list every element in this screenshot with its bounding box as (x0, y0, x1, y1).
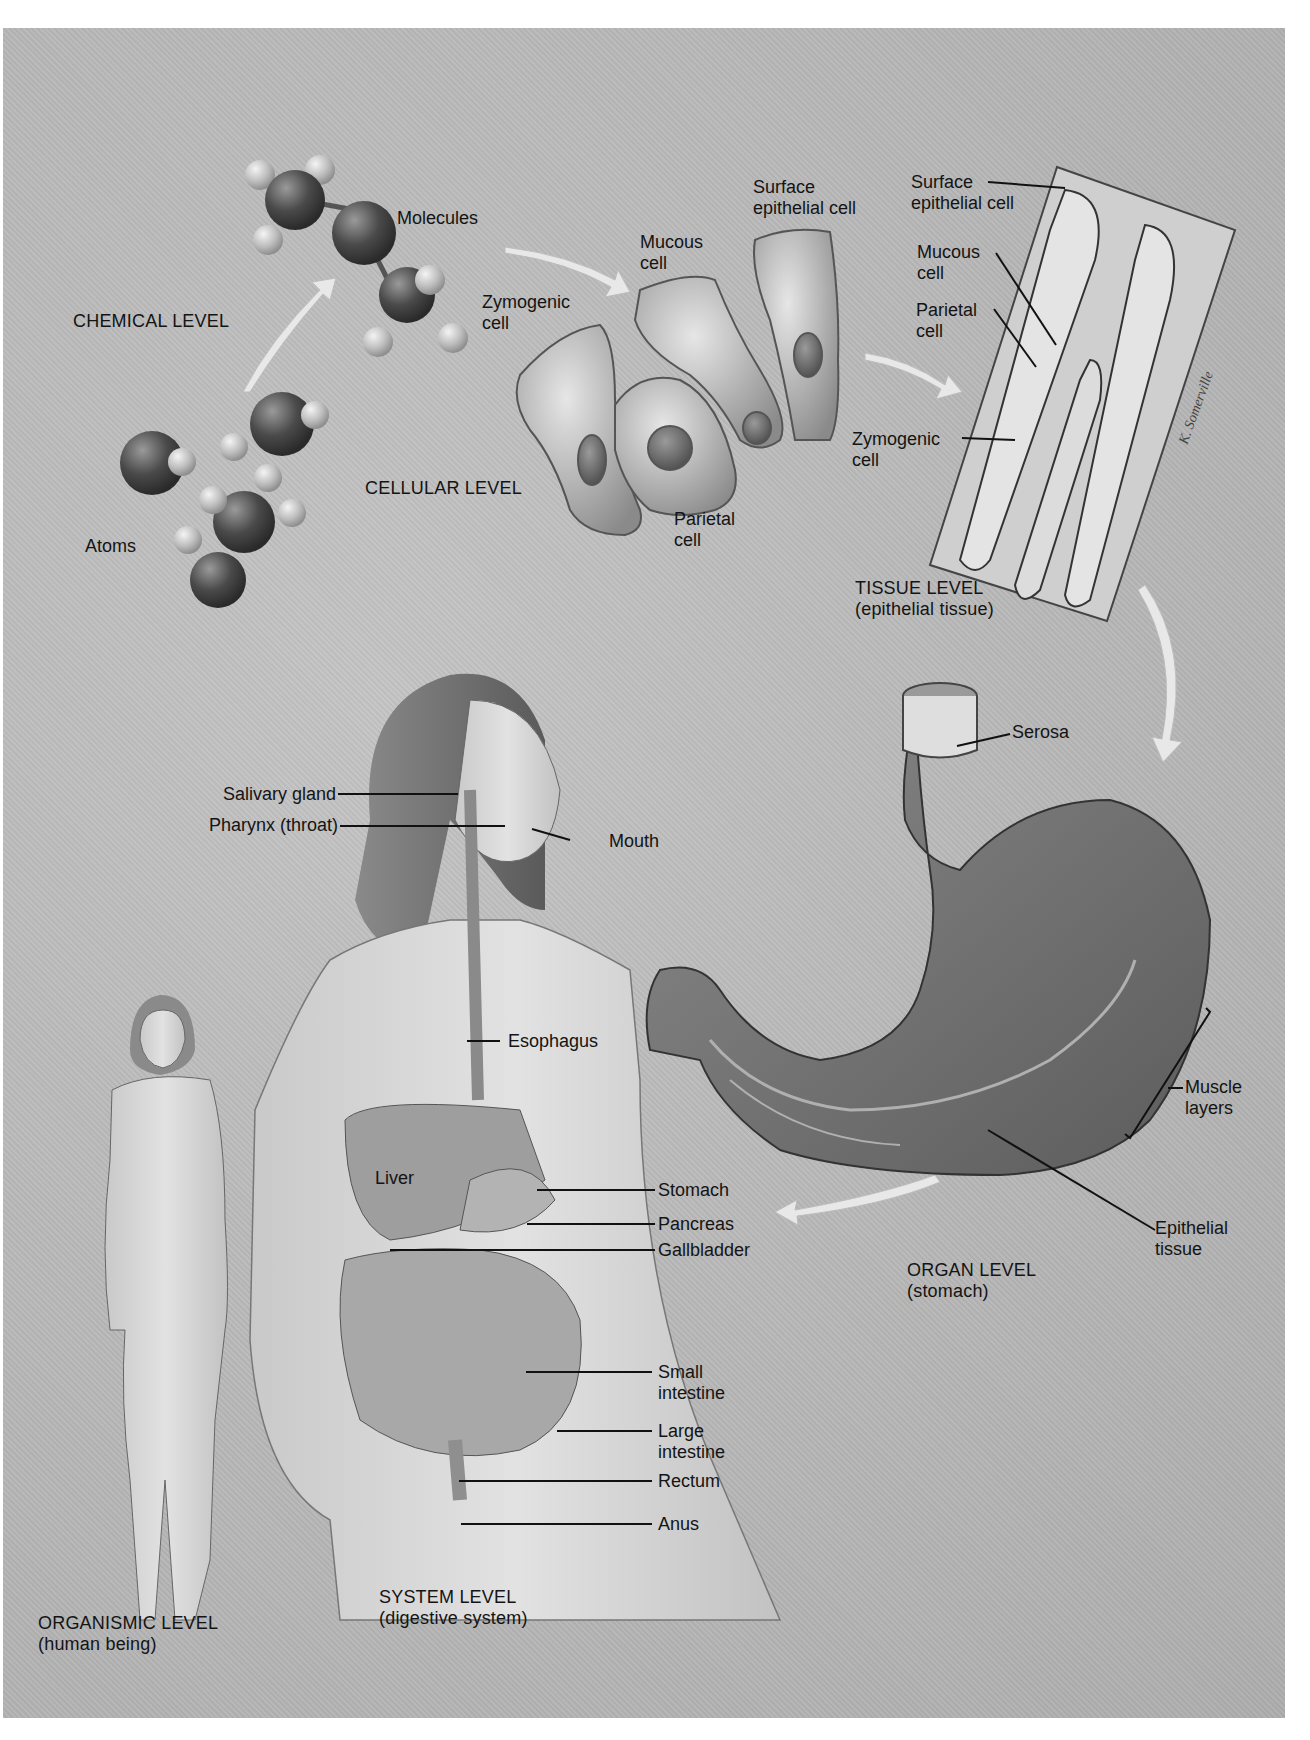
atoms-cluster (120, 392, 329, 608)
label-line: Zymogenic (852, 429, 940, 450)
tissue-level-title: TISSUE LEVEL (epithelial tissue) (855, 578, 994, 620)
cell-parietal-label: Parietal cell (674, 509, 735, 551)
system-level-name: SYSTEM LEVEL (379, 1587, 528, 1608)
label-line: Epithelial (1155, 1218, 1228, 1239)
label-line: intestine (658, 1383, 725, 1404)
molecule-model (245, 155, 468, 357)
label-line: Zymogenic (482, 292, 570, 313)
atoms-label: Atoms (85, 536, 136, 557)
label-line: cell (916, 321, 977, 342)
organ-level-name: ORGAN LEVEL (907, 1260, 1036, 1281)
label-line: Large (658, 1421, 725, 1442)
large-intestine-label: Large intestine (658, 1421, 725, 1463)
molecules-label: Molecules (397, 208, 478, 229)
organ-level-sub: (stomach) (907, 1281, 1036, 1302)
serosa-label: Serosa (1012, 722, 1069, 743)
woman-organismic-figure (105, 995, 228, 1620)
mouth-label: Mouth (609, 831, 659, 852)
chemical-level-title: CHEMICAL LEVEL (73, 311, 229, 332)
system-level-sub: (digestive system) (379, 1608, 528, 1629)
organ-level-title: ORGAN LEVEL (stomach) (907, 1260, 1036, 1302)
label-line: cell (852, 450, 940, 471)
tissue-level-sub: (epithelial tissue) (855, 599, 994, 620)
esophagus-label: Esophagus (508, 1031, 598, 1052)
epithelial-tissue-label: Epithelial tissue (1155, 1218, 1228, 1260)
organismic-level-name: ORGANISMIC LEVEL (38, 1613, 218, 1634)
label-line: tissue (1155, 1239, 1228, 1260)
tissue-zymogenic-label: Zymogenic cell (852, 429, 940, 471)
label-line: Muscle (1185, 1077, 1242, 1098)
label-line: cell (482, 313, 570, 334)
label-line: Mucous (917, 242, 980, 263)
stomach-label: Stomach (658, 1180, 729, 1201)
liver-label: Liver (375, 1168, 414, 1189)
label-line: epithelial cell (753, 198, 856, 219)
cell-surface-epithelial-label: Surface epithelial cell (753, 177, 856, 219)
tissue-surface-epithelial-label: Surface epithelial cell (911, 172, 1014, 214)
cell-mucous-label: Mucous cell (640, 232, 703, 274)
system-level-title: SYSTEM LEVEL (digestive system) (379, 1587, 528, 1629)
gallbladder-label: Gallbladder (658, 1240, 750, 1261)
tissue-level-name: TISSUE LEVEL (855, 578, 994, 599)
tissue-mucous-label: Mucous cell (917, 242, 980, 284)
organismic-level-title: ORGANISMIC LEVEL (human being) (38, 1613, 218, 1655)
salivary-gland-label: Salivary gland (150, 784, 336, 805)
label-line: Surface (911, 172, 1014, 193)
label-line: Mucous (640, 232, 703, 253)
label-line: cell (640, 253, 703, 274)
tissue-block (930, 167, 1235, 621)
small-intestine-label: Small intestine (658, 1362, 725, 1404)
pharynx-label: Pharynx (throat) (150, 815, 338, 836)
rectum-label: Rectum (658, 1471, 720, 1492)
anus-label: Anus (658, 1514, 699, 1535)
muscle-layers-label: Muscle layers (1185, 1077, 1242, 1119)
label-line: Surface (753, 177, 856, 198)
label-line: layers (1185, 1098, 1242, 1119)
cellular-level-title: CELLULAR LEVEL (365, 478, 522, 499)
label-line: intestine (658, 1442, 725, 1463)
label-line: Parietal (916, 300, 977, 321)
tissue-parietal-label: Parietal cell (916, 300, 977, 342)
stomach-illustration (647, 683, 1210, 1175)
label-line: epithelial cell (911, 193, 1014, 214)
pancreas-label: Pancreas (658, 1214, 734, 1235)
label-line: Parietal (674, 509, 735, 530)
cells (517, 230, 839, 535)
label-line: cell (674, 530, 735, 551)
cell-zymogenic-label: Zymogenic cell (482, 292, 570, 334)
label-line: Small (658, 1362, 725, 1383)
organismic-level-sub: (human being) (38, 1634, 218, 1655)
label-line: cell (917, 263, 980, 284)
